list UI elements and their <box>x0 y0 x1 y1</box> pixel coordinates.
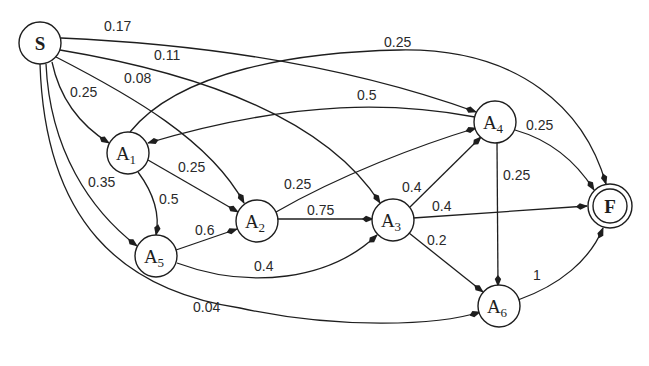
node-label-f: F <box>604 196 616 217</box>
edge-label-s-a6: 0.04 <box>193 299 220 315</box>
edge-label-s-a2: 0.08 <box>124 70 151 86</box>
edge-label-a1-f: 0.25 <box>384 34 411 50</box>
edge-a4-a1 <box>148 107 475 143</box>
edge-label-a5-a3: 0.4 <box>254 258 274 274</box>
edge-label-a4-f: 0.25 <box>526 117 553 133</box>
node-a6: A6 <box>478 285 520 327</box>
edge-label-a3-f: 0.4 <box>432 198 452 214</box>
edge-label-a2-a3: 0.75 <box>307 202 334 218</box>
edge-a5-a3 <box>177 235 377 278</box>
edge-label-a1-a2: 0.25 <box>178 159 205 175</box>
edge-a3-a4 <box>410 137 481 207</box>
node-a1: A1 <box>107 132 149 174</box>
edge-s-a1 <box>52 62 109 143</box>
node-f: F <box>588 184 632 228</box>
edge-label-s-a3: 0.11 <box>154 47 180 63</box>
node-a3: A3 <box>372 199 414 241</box>
edge-label-s-a4: 0.17 <box>104 18 131 34</box>
edge-label-s-a5: 0.35 <box>88 174 115 190</box>
edge-label-a1-a5: 0.5 <box>159 191 179 207</box>
transition-graph: 0.17 0.11 0.08 0.25 0.35 0.04 0.25 0.5 0… <box>0 0 649 366</box>
node-a5: A5 <box>135 235 177 277</box>
edge-label-a3-a6: 0.2 <box>427 232 447 248</box>
node-s: S <box>19 22 61 64</box>
edge-label-a2-a4: 0.25 <box>284 176 311 192</box>
edge-a6-f <box>518 228 603 300</box>
edge-label-a6-f: 1 <box>533 267 541 283</box>
node-a2: A2 <box>236 200 278 242</box>
edge-label-a4-a1: 0.5 <box>357 87 377 103</box>
node-label-s: S <box>35 33 46 54</box>
edge-a4-a6 <box>497 142 498 286</box>
edge-a1-a5 <box>138 172 157 235</box>
edge-label-a3-a4: 0.4 <box>402 179 422 195</box>
edge-label-s-a1: 0.25 <box>70 84 97 100</box>
node-a4: A4 <box>474 101 516 143</box>
edge-label-a5-a2: 0.6 <box>195 222 215 238</box>
edge-label-a4-a6: 0.25 <box>503 167 530 183</box>
